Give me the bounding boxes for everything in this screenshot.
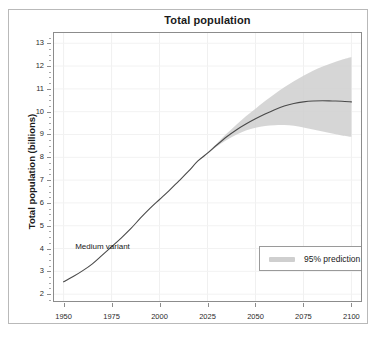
y-tick-mark-minor: [49, 214, 51, 215]
y-tick-label: 7: [22, 176, 44, 184]
x-tick-mark: [303, 303, 304, 307]
x-tick-label: 2025: [188, 312, 228, 321]
y-tick-mark-minor: [49, 174, 51, 175]
x-tick-label: 2050: [235, 312, 275, 321]
y-tick-mark-minor: [49, 129, 51, 130]
y-tick-mark-minor: [49, 123, 51, 124]
y-tick-mark-minor: [49, 186, 51, 187]
plot-area: 95% prediction interval: [53, 32, 362, 302]
y-tick-mark-minor: [49, 300, 51, 301]
x-tick-mark: [160, 303, 161, 307]
legend-label-prediction-interval: 95% prediction interval: [304, 254, 362, 264]
y-tick-mark-minor: [49, 288, 51, 289]
y-tick-mark-minor: [49, 106, 51, 107]
y-tick-mark-minor: [49, 243, 51, 244]
y-tick-label: 6: [22, 199, 44, 207]
x-tick-label: 2000: [140, 312, 180, 321]
y-tick-mark: [47, 66, 51, 67]
y-tick-mark: [47, 89, 51, 90]
page-title: Total population: [53, 14, 362, 26]
x-tick-mark: [208, 303, 209, 307]
y-tick-label: 9: [22, 130, 44, 138]
y-tick-label: 10: [22, 108, 44, 116]
y-tick-mark-minor: [49, 49, 51, 50]
y-tick-mark-minor: [49, 72, 51, 73]
y-tick-mark-minor: [49, 231, 51, 232]
y-tick-mark: [47, 249, 51, 250]
y-tick-mark-minor: [49, 77, 51, 78]
y-tick-mark: [47, 112, 51, 113]
y-tick-mark-minor: [49, 146, 51, 147]
y-tick-mark-minor: [49, 55, 51, 56]
y-tick-mark-minor: [49, 100, 51, 101]
y-tick-mark-minor: [49, 192, 51, 193]
x-tick-mark: [255, 303, 256, 307]
x-tick-label: 2075: [283, 312, 323, 321]
y-tick-mark-minor: [49, 277, 51, 278]
y-tick-mark-minor: [49, 209, 51, 210]
y-tick-mark-minor: [49, 140, 51, 141]
y-tick-label: 11: [22, 85, 44, 93]
y-tick-mark-minor: [49, 237, 51, 238]
y-tick-mark: [47, 294, 51, 295]
y-tick-mark-minor: [49, 60, 51, 61]
y-tick-mark: [47, 43, 51, 44]
annotation-medium-variant: Medium variant: [75, 242, 130, 251]
x-tick-mark: [112, 303, 113, 307]
y-tick-mark-minor: [49, 169, 51, 170]
legend-swatch-prediction-interval: [269, 257, 295, 262]
y-tick-mark-minor: [49, 163, 51, 164]
y-tick-label: 4: [22, 245, 44, 253]
x-tick-label: 2100: [331, 312, 371, 321]
y-tick-mark: [47, 134, 51, 135]
y-axis-ticks: 2345678910111213: [25, 32, 51, 302]
y-tick-mark-minor: [49, 266, 51, 267]
y-tick-mark-minor: [49, 152, 51, 153]
y-tick-mark: [47, 271, 51, 272]
y-tick-label: 5: [22, 222, 44, 230]
y-tick-mark-minor: [49, 83, 51, 84]
y-tick-mark: [47, 226, 51, 227]
y-tick-label: 2: [22, 290, 44, 298]
y-tick-label: 8: [22, 153, 44, 161]
y-tick-mark-minor: [49, 220, 51, 221]
y-tick-mark-minor: [49, 117, 51, 118]
y-tick-label: 13: [22, 39, 44, 47]
y-tick-mark-minor: [49, 260, 51, 261]
y-tick-mark: [47, 180, 51, 181]
x-tick-label: 1975: [92, 312, 132, 321]
y-tick-mark-minor: [49, 254, 51, 255]
x-tick-label: 1950: [44, 312, 84, 321]
y-tick-label: 12: [22, 62, 44, 70]
prediction-interval-band: [202, 57, 352, 158]
y-tick-mark-minor: [49, 197, 51, 198]
y-tick-mark-minor: [49, 38, 51, 39]
chart-legend[interactable]: 95% prediction interval: [259, 246, 362, 271]
x-tick-mark: [64, 303, 65, 307]
y-tick-mark: [47, 157, 51, 158]
y-tick-label: 3: [22, 267, 44, 275]
x-axis-ticks: 1950197520002025205020752100: [53, 303, 362, 325]
y-tick-mark: [47, 203, 51, 204]
x-tick-mark: [351, 303, 352, 307]
y-tick-mark-minor: [49, 95, 51, 96]
y-tick-mark-minor: [49, 283, 51, 284]
chart-figure: Total population Total population (billi…: [0, 0, 378, 338]
